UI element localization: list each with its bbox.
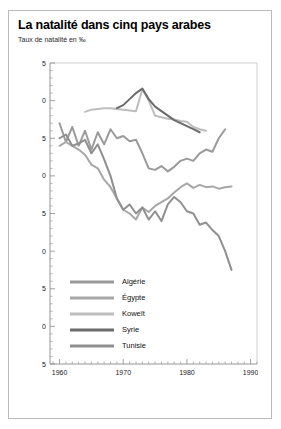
x-axis-labels: 1960197019801990 [52,369,258,376]
legend-label: Égypte [122,293,145,302]
legend-label: Tunisie [122,341,146,350]
x-axis-tick-label: 1960 [52,369,68,376]
series-line-algrie [60,123,226,171]
series-line-gypte [60,142,232,220]
x-axis-tick-label: 1970 [115,369,131,376]
x-axis-tick-label: 1980 [179,369,195,376]
y-axis-tick-label: 50 [42,97,46,104]
x-axis-ticks [53,359,257,364]
line-chart: 152025303540455055 1960197019801990 Algé… [42,53,258,407]
y-axis-ticks [50,63,55,364]
chart-plot-area: 152025303540455055 1960197019801990 Algé… [42,53,258,407]
y-axis-tick-label: 35 [42,210,46,217]
page-title: La natalité dans cinq pays arabes [18,18,211,32]
chart-card: La natalité dans cinq pays arabes Taux d… [8,10,272,419]
y-axis-tick-label: 55 [42,60,46,67]
legend-label: Algérie [122,277,145,286]
x-axis-tick-label: 1990 [243,369,258,376]
legend-label: Koweït [122,309,146,318]
chart-legend: AlgérieÉgypteKoweïtSyrieTunisie [70,277,146,350]
y-axis-labels: 152025303540455055 [42,60,46,368]
y-axis-tick-label: 45 [42,135,46,142]
chart-subtitle: Taux de natalité en ‰ [18,36,86,43]
legend-label: Syrie [122,325,139,334]
y-axis-tick-label: 25 [42,285,46,292]
y-axis-tick-label: 30 [42,248,46,255]
y-axis-tick-label: 15 [42,361,46,368]
y-axis-tick-label: 40 [42,172,46,179]
data-series [60,89,232,270]
y-axis-tick-label: 20 [42,323,46,330]
